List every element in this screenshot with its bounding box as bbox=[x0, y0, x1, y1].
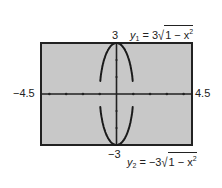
x-min-label: −4.5 bbox=[13, 88, 35, 99]
eq1-exp: 2 bbox=[189, 28, 193, 35]
x-tick bbox=[182, 93, 185, 96]
eq1-sub: 1 bbox=[136, 35, 140, 42]
eq1-coef: = 3 bbox=[142, 29, 158, 41]
x-tick bbox=[149, 93, 152, 96]
y-tick bbox=[115, 76, 117, 78]
radical-icon: √ bbox=[162, 155, 168, 169]
eq2-exp: 2 bbox=[193, 155, 197, 162]
y-tick bbox=[115, 110, 117, 112]
x-tick bbox=[132, 93, 135, 96]
x-tick bbox=[65, 93, 68, 96]
eq2-coef: = −3 bbox=[139, 156, 161, 168]
y-tick bbox=[115, 59, 117, 61]
eq2-radicand: 1 − x bbox=[169, 156, 193, 168]
equation-y2: y2 = −3√1 − x2 bbox=[127, 152, 197, 172]
y-min-label: −3 bbox=[108, 149, 121, 160]
y-tick bbox=[115, 127, 117, 129]
eq1-radicand: 1 − x bbox=[165, 29, 189, 41]
x-tick bbox=[166, 93, 169, 96]
x-tick bbox=[48, 93, 51, 96]
x-max-label: 4.5 bbox=[195, 88, 210, 99]
x-tick bbox=[82, 93, 85, 96]
y-max-label: 3 bbox=[112, 30, 118, 41]
eq2-sub: 2 bbox=[133, 162, 137, 169]
equation-y1: y1 = 3√1 − x2 bbox=[130, 25, 193, 45]
x-tick bbox=[98, 93, 101, 96]
radical-icon: √ bbox=[158, 28, 164, 42]
